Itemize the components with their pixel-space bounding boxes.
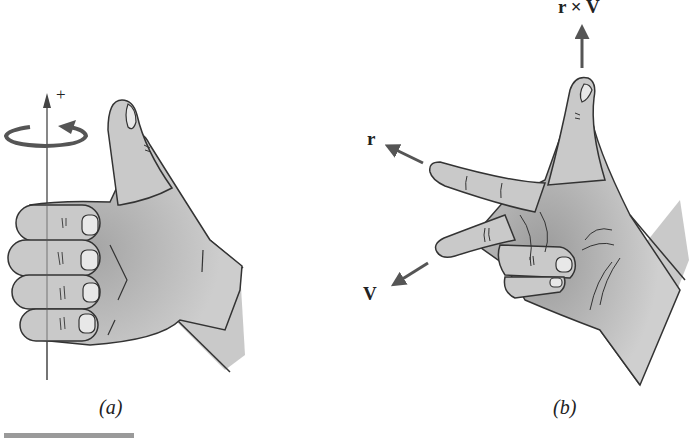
v-vector-arrow	[396, 263, 428, 283]
panel-b	[390, 30, 689, 385]
footer-rule	[4, 433, 134, 438]
rotation-arrow-icon	[6, 127, 86, 146]
hand-a-fingers	[8, 205, 100, 341]
caption-b: (b)	[553, 396, 576, 419]
axis-arrowhead-icon	[43, 93, 51, 108]
panel-a	[6, 93, 245, 380]
hand-b-index-finger	[430, 162, 545, 212]
caption-a: (a)	[99, 396, 122, 419]
r-cross-v-label: r × V	[558, 0, 600, 18]
axis-positive-label: +	[56, 85, 66, 105]
hand-a-thumb	[108, 100, 172, 205]
v-label: V	[363, 283, 377, 305]
hand-b-thumb	[548, 78, 605, 186]
r-label: r	[367, 128, 375, 150]
right-hand-rule-figure	[0, 0, 689, 438]
r-vector-arrow	[390, 147, 423, 163]
